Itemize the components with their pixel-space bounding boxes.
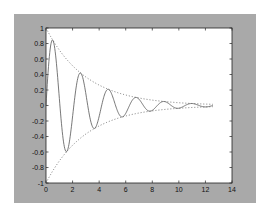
y-tick-label: 1 xyxy=(40,25,44,32)
y-tick-label: 0.8 xyxy=(34,40,44,47)
y-tick-label: -0.8 xyxy=(32,164,44,171)
y-axis-tick-labels: 10.80.60.40.20-0.2-0.4-0.6-0.8-1 xyxy=(32,25,44,187)
x-tick-label: 6 xyxy=(124,186,128,193)
x-tick-label: 2 xyxy=(71,186,75,193)
y-tick-label: -0.4 xyxy=(32,133,44,140)
x-axis-tick-labels: 02468101214 xyxy=(44,186,236,193)
y-tick-label: 0.2 xyxy=(34,87,44,94)
y-tick-label: 0.6 xyxy=(34,56,44,63)
x-tick-label: 8 xyxy=(150,186,154,193)
y-tick-label: -0.2 xyxy=(32,118,44,125)
y-tick-label: 0 xyxy=(40,102,44,109)
y-tick-label: -0.6 xyxy=(32,149,44,156)
x-tick-label: 10 xyxy=(175,186,183,193)
y-tick-label: -1 xyxy=(38,180,44,187)
x-tick-label: 14 xyxy=(228,186,236,193)
plot-area: 02468101214 10.80.60.40.20-0.2-0.4-0.6-0… xyxy=(0,0,264,216)
x-tick-label: 0 xyxy=(44,186,48,193)
x-tick-label: 12 xyxy=(202,186,210,193)
y-tick-label: 0.4 xyxy=(34,71,44,78)
x-tick-label: 4 xyxy=(97,186,101,193)
